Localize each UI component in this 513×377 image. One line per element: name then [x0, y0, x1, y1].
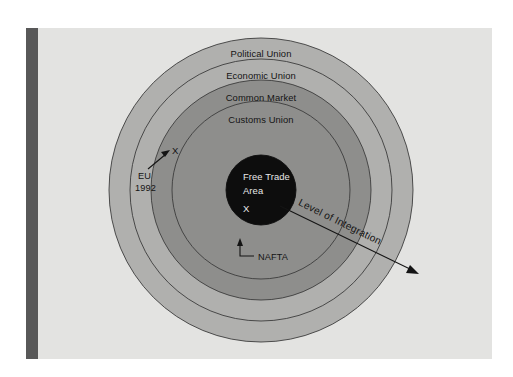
core-label-line1: Free Trade	[243, 171, 290, 182]
figure-canvas: Political Union Economic Union Common Ma…	[0, 0, 513, 377]
book-spine-bar	[26, 28, 38, 359]
eu-1992-label-line1: EU	[138, 171, 151, 181]
concentric-rings-svg: Political Union Economic Union Common Ma…	[38, 28, 492, 359]
level-of-integration-arrowhead	[406, 265, 419, 274]
eu-1992-label-line2: 1992	[135, 183, 156, 193]
ring-label-customs-union: Customs Union	[228, 114, 293, 125]
core-marker-x: X	[243, 203, 250, 214]
ring-label-political-union: Political Union	[231, 48, 292, 59]
nafta-label: NAFTA	[258, 252, 289, 262]
ring-label-economic-union: Economic Union	[226, 70, 296, 81]
eu-1992-marker-x: X	[172, 145, 179, 156]
integration-levels-diagram: Political Union Economic Union Common Ma…	[38, 28, 492, 359]
core-label-line2: Area	[243, 185, 264, 196]
ring-label-common-market: Common Market	[226, 92, 297, 103]
